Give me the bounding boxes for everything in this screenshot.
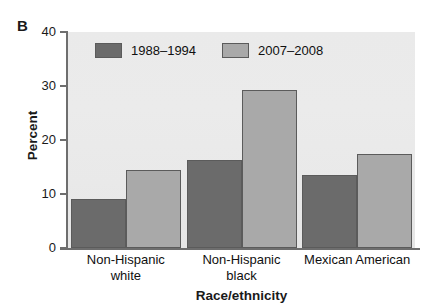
legend-swatch-icon-series-1: [95, 43, 122, 58]
y-tick-mark: [60, 139, 66, 141]
bar-series-2-group-3: [357, 154, 412, 248]
legend-item-series-1: 1988–1994: [95, 43, 196, 58]
y-tick-label: 20: [0, 133, 56, 146]
y-tick-mark: [60, 31, 66, 33]
y-tick-mark: [60, 247, 66, 249]
x-category-label-3: Mexican American: [277, 252, 435, 268]
plot-area: [68, 32, 415, 248]
y-tick-label: 30: [0, 79, 56, 92]
x-axis-title: Race/ethnicity: [68, 288, 415, 303]
x-category-label-line: Mexican American: [277, 252, 435, 268]
legend: 1988–1994 2007–2008: [95, 43, 323, 58]
bar-series-1-group-2: [187, 160, 242, 248]
y-tick-mark: [60, 193, 66, 195]
y-tick-label: 40: [0, 25, 56, 38]
x-axis-line: [60, 248, 420, 250]
bar-series-2-group-1: [126, 170, 181, 248]
x-category-label-line: black: [162, 268, 322, 284]
legend-item-series-2: 2007–2008: [222, 43, 323, 58]
y-tick-label: 10: [0, 187, 56, 200]
legend-label-series-1: 1988–1994: [131, 43, 196, 58]
bar-series-1-group-3: [302, 175, 357, 248]
bar-series-2-group-2: [242, 90, 297, 248]
legend-swatch-icon-series-2: [222, 43, 249, 58]
legend-label-series-2: 2007–2008: [258, 43, 323, 58]
y-tick-mark: [60, 85, 66, 87]
bar-series-1-group-1: [71, 199, 126, 248]
y-axis-line: [66, 31, 68, 250]
